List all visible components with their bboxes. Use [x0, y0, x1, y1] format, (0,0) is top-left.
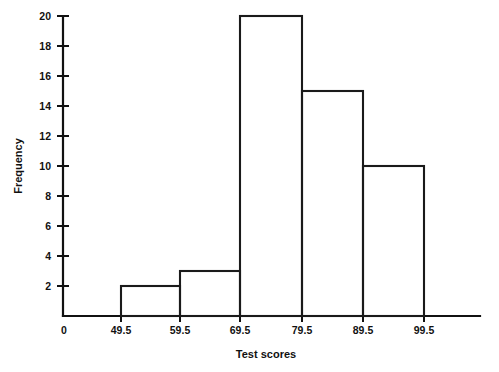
x-tick-label-69-5: 69.5 [230, 324, 251, 336]
histogram-chart: 20 18 16 14 12 10 8 6 4 2 0 49.5 59.5 69… [0, 0, 499, 372]
y-tick-label-14: 14 [39, 100, 51, 112]
y-tick-label-8: 8 [45, 190, 51, 202]
y-tick-label-2: 2 [45, 280, 51, 292]
y-tick-label-18: 18 [39, 40, 51, 52]
y-tick-label-10: 10 [39, 160, 51, 172]
x-tick-label-79-5: 79.5 [292, 324, 313, 336]
histogram-canvas: 20 18 16 14 12 10 8 6 4 2 0 49.5 59.5 69… [0, 0, 499, 372]
y-tick-label-6: 6 [45, 220, 51, 232]
y-tick-label-12: 12 [39, 130, 51, 142]
x-axis-title: Test scores [236, 348, 296, 360]
y-axis-title: Frequency [12, 137, 24, 194]
x-tick-label-0: 0 [61, 324, 67, 336]
y-tick-label-20: 20 [39, 10, 51, 22]
y-tick-label-16: 16 [39, 70, 51, 82]
x-tick-label-99-5: 99.5 [414, 324, 435, 336]
x-tick-label-89-5: 89.5 [353, 324, 374, 336]
y-tick-label-4: 4 [45, 250, 51, 262]
x-tick-label-59-5: 59.5 [170, 324, 191, 336]
x-tick-label-49-5: 49.5 [111, 324, 132, 336]
